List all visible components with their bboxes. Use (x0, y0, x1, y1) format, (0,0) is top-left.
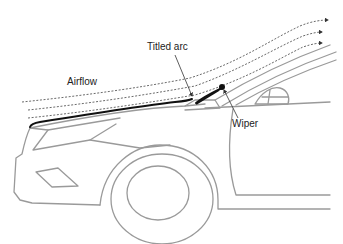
airflow-label: Airflow (67, 77, 97, 87)
headlight (36, 168, 78, 187)
side-mirror (255, 88, 289, 104)
airflow-streamlines (22, 20, 328, 118)
wheel-rim (127, 166, 189, 220)
windshield-line-1 (215, 45, 330, 100)
front-fascia (14, 128, 100, 205)
car-airflow-diagram: Airflow Titled arc Wiper (0, 0, 343, 244)
windshield-line-2 (222, 52, 336, 106)
hood-line (30, 104, 205, 128)
tire-outer (111, 154, 213, 244)
hood-crease-2 (33, 124, 116, 150)
titled-arc-line (30, 88, 222, 127)
titled-arc-leader (175, 55, 192, 96)
car-body-outline (14, 45, 336, 244)
titled-arc-label: Titled arc (147, 42, 188, 52)
wheel-arch-outer (100, 145, 330, 209)
windshield-line-3 (236, 60, 336, 105)
wiper-label: Wiper (232, 119, 258, 129)
hood-crease-3 (90, 140, 170, 148)
wiper-pivot (219, 84, 225, 90)
